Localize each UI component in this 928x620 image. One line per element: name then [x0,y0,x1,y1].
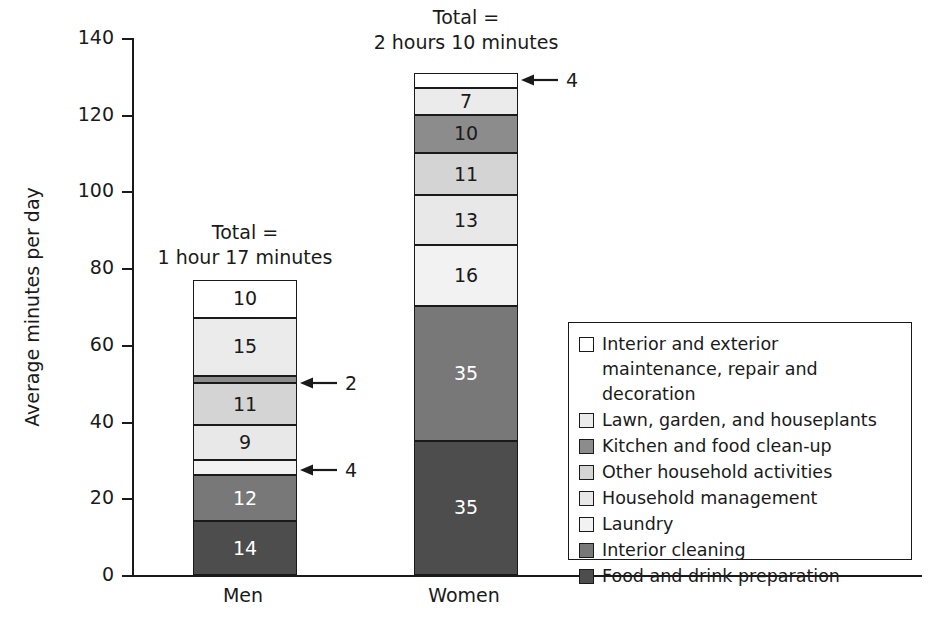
legend-swatch-icon [579,517,594,532]
callout-men-kitchen: 2 [300,374,357,392]
legend-item[interactable]: Lawn, garden, and houseplants [579,408,903,433]
total-annotation-women-line1: Total = [366,5,566,30]
y-tick-mark [122,268,132,270]
chart-legend: Interior and exterior maintenance, repai… [568,322,912,560]
callout-men-laundry-value: 4 [345,461,357,480]
y-axis-line [132,38,134,575]
legend-item-label: Lawn, garden, and houseplants [602,408,877,433]
arrow-left-icon [300,463,338,477]
legend-swatch-icon [579,439,594,454]
stacked-bar-chart: Average minutes per day 0204060801001201… [0,0,928,620]
bar-men[interactable]: 14129111510 [193,280,297,575]
legend-item-label: Food and drink preparation [602,564,840,589]
legend-item[interactable]: Interior cleaning [579,538,903,563]
y-tick-mark [122,115,132,117]
legend-item[interactable]: Interior and exterior maintenance, repai… [579,332,903,407]
bar-segment-value: 35 [454,364,478,383]
legend-item-label: Interior and exterior maintenance, repai… [602,332,903,407]
callout-women-maintenance-value: 4 [566,71,578,90]
y-tick-label: 60 [52,335,114,354]
total-annotation-men-line2: 1 hour 17 minutes [145,245,345,270]
bar-segment-value: 11 [454,165,478,184]
y-tick-label: 20 [52,488,114,507]
y-tick-mark [122,575,132,577]
legend-swatch-icon [579,413,594,428]
bar-segment[interactable]: 15 [193,318,297,376]
bar-women[interactable]: 3535161311107 [414,76,518,575]
x-label-men: Men [183,584,303,606]
legend-item[interactable]: Laundry [579,512,903,537]
bar-segment[interactable]: 35 [414,441,518,575]
y-tick-mark [122,191,132,193]
bar-segment-value: 11 [233,395,257,414]
callout-men-laundry: 4 [300,461,357,479]
total-annotation-men: Total = 1 hour 17 minutes [145,220,345,270]
bar-segment-value: 7 [460,92,472,111]
bar-segment[interactable]: 10 [193,280,297,318]
bar-segment[interactable] [414,73,518,88]
legend-item-label: Kitchen and food clean-up [602,434,832,459]
legend-swatch-icon [579,543,594,558]
bar-segment[interactable]: 10 [414,115,518,153]
legend-swatch-icon [579,465,594,480]
bar-segment-value: 35 [454,498,478,517]
callout-men-kitchen-value: 2 [345,374,357,393]
legend-item-label: Household management [602,486,817,511]
total-annotation-women-line2: 2 hours 10 minutes [366,30,566,55]
legend-item[interactable]: Kitchen and food clean-up [579,434,903,459]
bar-segment-value: 10 [233,289,257,308]
y-tick-mark [122,345,132,347]
total-annotation-men-line1: Total = [145,220,345,245]
bar-segment-value: 13 [454,211,478,230]
bar-segment[interactable]: 12 [193,475,297,521]
y-tick-label: 120 [52,105,114,124]
legend-item-label: Other household activities [602,460,832,485]
y-tick-label: 40 [52,412,114,431]
bar-segment[interactable]: 7 [414,88,518,115]
bar-segment[interactable] [193,460,297,475]
y-tick-label: 80 [52,258,114,277]
bar-segment[interactable]: 14 [193,521,297,575]
legend-swatch-icon [579,491,594,506]
bar-segment-value: 16 [454,266,478,285]
bar-segment[interactable]: 11 [414,153,518,195]
arrow-left-icon [521,73,559,87]
legend-items: Interior and exterior maintenance, repai… [579,332,903,589]
bar-segment[interactable]: 35 [414,306,518,440]
x-label-women: Women [404,584,524,606]
legend-swatch-icon [579,569,594,584]
total-annotation-women: Total = 2 hours 10 minutes [366,5,566,55]
bar-segment[interactable]: 13 [414,195,518,245]
bar-segment-value: 14 [233,539,257,558]
bar-segment-value: 9 [239,433,251,452]
legend-item[interactable]: Other household activities [579,460,903,485]
y-tick-mark [122,498,132,500]
bar-segment[interactable]: 16 [414,245,518,306]
y-tick-mark [122,38,132,40]
bar-segment-value: 10 [454,124,478,143]
legend-item[interactable]: Food and drink preparation [579,564,903,589]
arrow-left-icon [300,376,338,390]
y-tick-label: 100 [52,181,114,200]
callout-women-maintenance: 4 [521,71,578,89]
legend-item-label: Interior cleaning [602,538,746,563]
y-tick-label: 140 [52,28,114,47]
bar-segment[interactable] [193,376,297,384]
bar-segment-value: 12 [233,489,257,508]
bar-segment[interactable]: 11 [193,383,297,425]
legend-swatch-icon [579,337,594,352]
y-tick-mark [122,422,132,424]
y-axis-title: Average minutes per day [21,107,43,507]
bar-segment-value: 15 [233,337,257,356]
bar-segment[interactable]: 9 [193,425,297,460]
y-tick-label: 0 [52,565,114,584]
legend-item-label: Laundry [602,512,673,537]
legend-item[interactable]: Household management [579,486,903,511]
